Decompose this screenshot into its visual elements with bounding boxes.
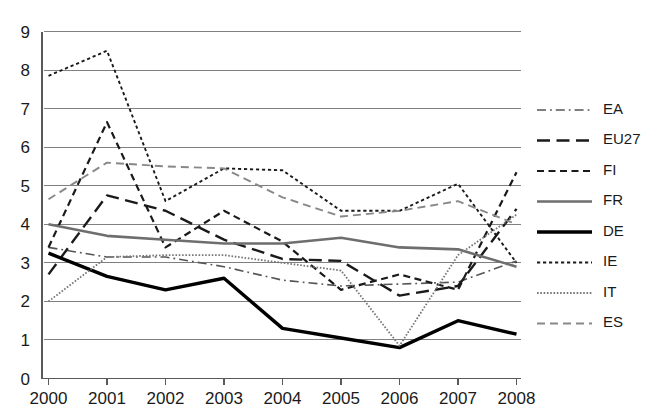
y-tick-label-8: 8 — [21, 61, 30, 80]
series-line-de — [49, 253, 517, 347]
y-tick-label-5: 5 — [21, 177, 30, 196]
chart-figure: 9876543210 20002001200220032004200520062… — [0, 0, 669, 417]
series-line-ie — [49, 51, 517, 263]
y-tick-label-7: 7 — [21, 100, 30, 119]
legend-label-eu27[interactable]: EU27 — [603, 130, 641, 147]
x-axis-tick-labels: 200020012002200320042005200620072008 — [30, 389, 536, 408]
data-series-group — [49, 51, 517, 348]
legend-label-de[interactable]: DE — [603, 222, 624, 239]
y-axis-tick-labels: 9876543210 — [21, 23, 30, 389]
x-tick-label-2002: 2002 — [147, 389, 185, 408]
x-tick-label-2005: 2005 — [322, 389, 360, 408]
y-tick-label-1: 1 — [21, 331, 30, 350]
x-tick-label-2000: 2000 — [30, 389, 68, 408]
x-tick-label-2006: 2006 — [381, 389, 419, 408]
x-tick-label-2007: 2007 — [439, 389, 477, 408]
y-tick-label-4: 4 — [21, 215, 30, 234]
legend-label-ie[interactable]: IE — [603, 252, 617, 269]
legend-label-fr[interactable]: FR — [603, 191, 623, 208]
x-tick-label-2004: 2004 — [264, 389, 302, 408]
x-tick-label-2003: 2003 — [205, 389, 243, 408]
x-tick-label-2001: 2001 — [88, 389, 126, 408]
y-tick-label-9: 9 — [21, 23, 30, 42]
y-tick-label-0: 0 — [21, 370, 30, 389]
x-axis-tick-marks — [49, 379, 517, 385]
legend-label-fi[interactable]: FI — [603, 161, 616, 178]
legend-label-es[interactable]: ES — [603, 313, 623, 330]
y-tick-label-6: 6 — [21, 138, 30, 157]
y-tick-label-3: 3 — [21, 254, 30, 273]
legend-label-ea[interactable]: EA — [603, 100, 623, 117]
line-chart: 9876543210 20002001200220032004200520062… — [0, 0, 669, 417]
series-line-fr — [49, 224, 517, 266]
x-tick-label-2008: 2008 — [498, 389, 536, 408]
series-line-es — [49, 163, 517, 225]
chart-legend: EAEU27FIFRDEIEITES — [537, 100, 641, 331]
y-tick-label-2: 2 — [21, 292, 30, 311]
legend-label-it[interactable]: IT — [603, 283, 616, 300]
